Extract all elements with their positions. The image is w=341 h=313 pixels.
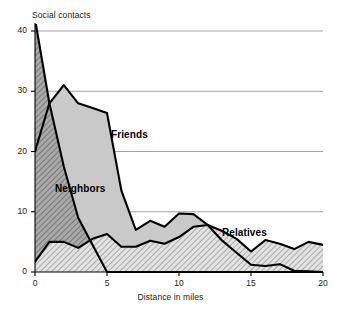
y-tick-label: 20 — [5, 146, 27, 156]
y-tick-label: 10 — [5, 206, 27, 216]
social-contacts-chart: Social contacts Distance in miles 010203… — [0, 0, 341, 313]
series-label-neighbors: Neighbors — [55, 183, 105, 194]
x-axis-title: Distance in miles — [0, 292, 341, 302]
y-tick-label: 0 — [5, 266, 27, 276]
chart-plot-area — [0, 0, 341, 313]
y-axis-title: Social contacts — [32, 10, 91, 20]
series-areas — [35, 19, 323, 272]
x-tick-label: 5 — [95, 278, 119, 288]
x-tick-label: 15 — [239, 278, 263, 288]
series-label-friends: Friends — [111, 129, 148, 140]
x-tick-label: 0 — [23, 278, 47, 288]
y-tick-label: 30 — [5, 85, 27, 95]
series-label-relatives: Relatives — [222, 227, 267, 238]
x-tick-label: 20 — [311, 278, 335, 288]
x-tick-label: 10 — [167, 278, 191, 288]
y-tick-label: 40 — [5, 25, 27, 35]
